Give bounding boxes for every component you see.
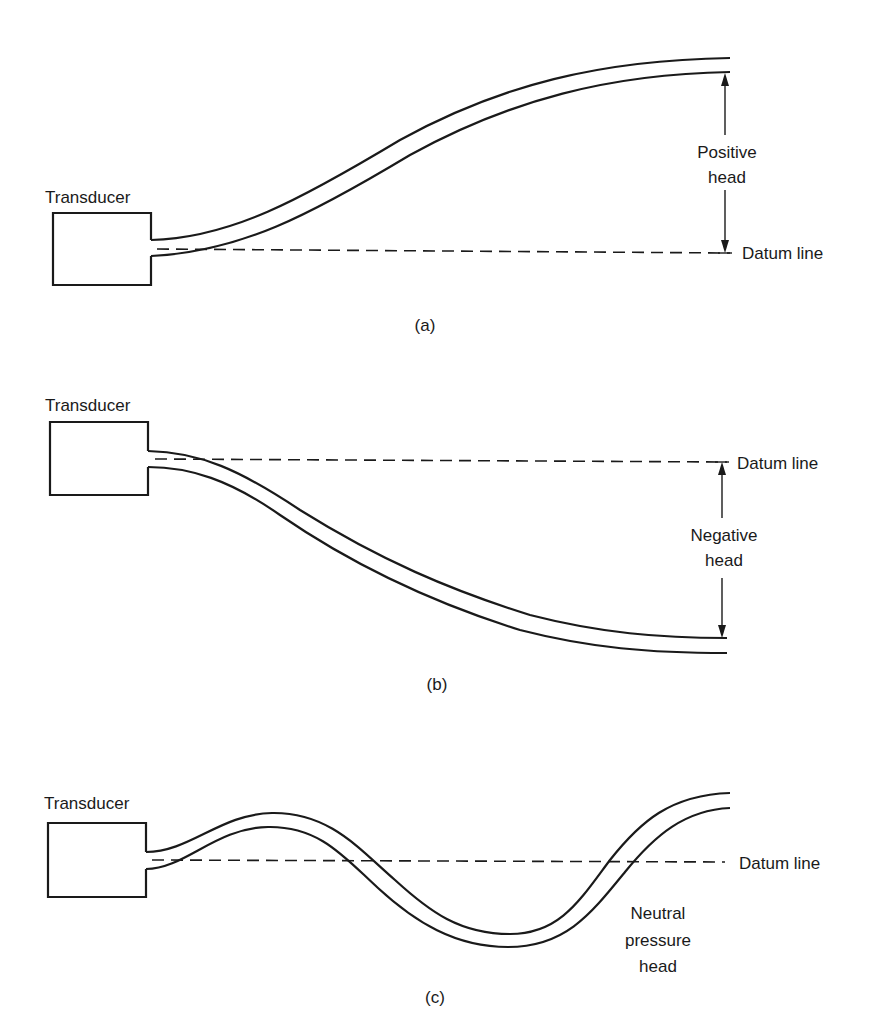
datum-line-label: Datum line (742, 244, 823, 263)
head-label-line2: head (705, 551, 743, 570)
tube-lower-wall (151, 72, 730, 256)
arrow-up-icon (721, 73, 729, 86)
head-label-line1: Negative (690, 526, 757, 545)
datum-line (155, 459, 727, 462)
transducer-label: Transducer (45, 396, 131, 415)
arrow-up-icon (718, 462, 726, 475)
datum-line (157, 249, 730, 253)
panel-caption: (a) (415, 316, 436, 335)
transducer-label: Transducer (45, 188, 131, 207)
head-label-line1: Positive (697, 143, 757, 162)
datum-line-label: Datum line (739, 854, 820, 873)
transducer-box (48, 823, 146, 897)
panel-caption: (c) (425, 988, 445, 1007)
head-label-line1: Neutral (631, 904, 686, 923)
panel-caption: (b) (427, 675, 448, 694)
datum-line-label: Datum line (737, 454, 818, 473)
panel-a-positive-head: Transducer Datum line Positive head (a) (45, 58, 823, 335)
datum-line (152, 860, 725, 862)
tube-lower-wall (148, 467, 727, 653)
head-label-line2: head (708, 168, 746, 187)
panel-b-negative-head: Transducer Datum line Negative head (b) (45, 396, 818, 694)
head-label-line2: pressure (625, 931, 691, 950)
head-label-line3: head (639, 957, 677, 976)
panel-c-neutral-head: Transducer Datum line Neutral pressure h… (44, 793, 820, 1007)
arrow-down-icon (721, 240, 729, 253)
tube-lower-wall (146, 808, 730, 947)
transducer-label: Transducer (44, 794, 130, 813)
transducer-box (50, 422, 148, 495)
tube-upper-wall (148, 451, 727, 638)
tube-upper-wall (151, 58, 730, 240)
transducer-box (53, 213, 151, 285)
pressure-head-diagram: Transducer Datum line Positive head (a) … (0, 0, 890, 1030)
arrow-down-icon (718, 625, 726, 638)
